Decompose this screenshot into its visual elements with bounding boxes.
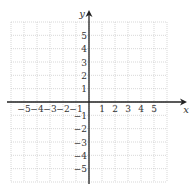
y-tick-label: −1 (74, 111, 87, 121)
x-tick-label: 1 (99, 104, 105, 114)
y-tick-label: 5 (81, 31, 87, 41)
x-tick-label: 3 (125, 104, 131, 114)
coordinate-plane: −5−4−3−2−11234554321−1−2−3−4−5xy (0, 0, 196, 193)
axes (7, 10, 187, 184)
x-tick-label: −4 (30, 104, 44, 114)
tick-labels: −5−4−3−2−11234554321−1−2−3−4−5xy (17, 8, 189, 174)
y-axis-label: y (78, 8, 85, 19)
x-tick-label: 5 (151, 104, 157, 114)
y-tick-label: −5 (74, 164, 88, 174)
x-axis-label: x (183, 104, 189, 115)
x-tick-label: −5 (17, 104, 31, 114)
y-tick-label: −4 (74, 151, 88, 161)
y-tick-label: −3 (74, 138, 88, 148)
y-tick-label: −2 (74, 124, 87, 134)
y-tick-label: 4 (81, 44, 87, 54)
y-tick-label: 3 (81, 58, 87, 68)
x-tick-label: 4 (138, 104, 144, 114)
x-tick-label: −3 (43, 104, 57, 114)
y-tick-label: 2 (81, 71, 87, 81)
x-tick-label: −2 (56, 104, 69, 114)
x-tick-label: 2 (112, 104, 118, 114)
y-tick-label: 1 (81, 84, 87, 94)
